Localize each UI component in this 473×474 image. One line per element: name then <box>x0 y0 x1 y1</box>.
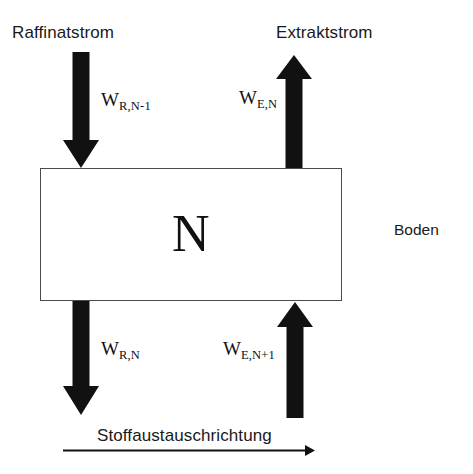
raffinat-out-arrow-icon <box>63 301 99 415</box>
raffinat-in-arrow-icon <box>63 52 99 168</box>
mass-transfer-arrow-head-icon <box>305 445 315 456</box>
extrakt-out-arrow-icon <box>276 55 312 168</box>
arrow-layer <box>0 0 473 474</box>
diagram-canvas: Raffinatstrom Extraktstrom Boden N WR,N-… <box>0 0 473 474</box>
extrakt-in-arrow-icon <box>277 302 313 418</box>
